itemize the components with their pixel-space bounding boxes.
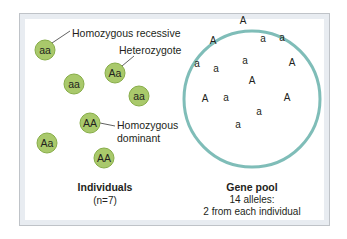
individual-aa: aa xyxy=(129,86,149,106)
individual-AA: AA xyxy=(94,148,114,168)
individuals-title: Individuals xyxy=(78,181,133,193)
label-homozygous-recessive: Homozygous recessive xyxy=(72,27,181,39)
gene-pool-title: Gene pool xyxy=(226,181,277,193)
label-homozygous-dominant-line1: Homozygous xyxy=(117,119,178,131)
genotype-label: aa xyxy=(68,78,80,90)
gene-pool-description: 2 from each individual xyxy=(203,206,300,217)
individual-aa: aa xyxy=(35,40,55,60)
allele-a: a xyxy=(223,92,229,103)
allele-A: A xyxy=(202,93,209,104)
genotype-label: Aa xyxy=(41,137,54,149)
allele-A: A xyxy=(284,92,291,103)
allele-a: a xyxy=(194,58,200,69)
genotype-label: AA xyxy=(97,152,111,164)
allele-A: A xyxy=(249,75,256,86)
allele-A: A xyxy=(289,57,296,68)
allele-a: a xyxy=(260,33,266,44)
individual-Aa: Aa xyxy=(37,133,57,153)
individual-Aa: Aa xyxy=(105,63,125,83)
genotype-label: AA xyxy=(83,117,97,129)
allele-a: a xyxy=(242,55,248,66)
leader-line-heterozygote xyxy=(122,56,134,66)
individuals-group: aaAaaaaaAAAaAA xyxy=(35,40,149,168)
label-homozygous-dominant-line2: dominant xyxy=(117,132,160,144)
allele-a: a xyxy=(256,106,262,117)
individual-aa: aa xyxy=(64,74,84,94)
genotype-label: Aa xyxy=(109,67,122,79)
label-heterozygote: Heterozygote xyxy=(119,44,182,56)
gene-pool-diagram: aaAaaaaaAAAaAA Homozygous recessive Hete… xyxy=(0,0,347,239)
allele-a: a xyxy=(235,119,241,130)
gene-pool-allele-count: 14 alleles: xyxy=(229,194,274,205)
allele-A: A xyxy=(210,35,217,46)
individuals-count: (n=7) xyxy=(93,195,117,206)
genotype-label: aa xyxy=(133,90,145,102)
allele-a: a xyxy=(213,63,219,74)
allele-a: a xyxy=(279,32,285,43)
genotype-label: aa xyxy=(39,44,51,56)
leader-line-homozygous-dominant xyxy=(100,123,115,126)
allele-A: A xyxy=(240,15,247,26)
individual-AA: AA xyxy=(80,113,100,133)
leader-line-homozygous-recessive xyxy=(52,31,70,43)
